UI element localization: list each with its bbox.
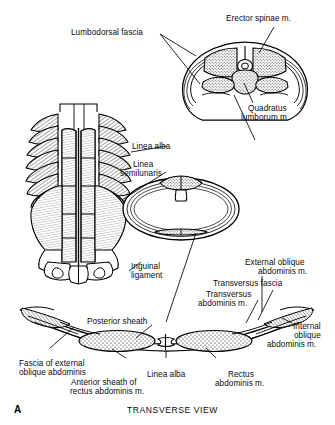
label-transversus-fascia: Transversus fascia xyxy=(213,279,282,289)
trunk-transverse-oval-panel xyxy=(123,176,239,240)
label-transversus-abdominis-line2: abdominis m. xyxy=(198,299,247,309)
lumbar-cross-section-panel xyxy=(182,42,307,120)
panel-letter-a: A xyxy=(14,404,22,415)
label-rectus-abdominis-line2: abdominis m. xyxy=(215,379,264,389)
label-inguinal-ligament-line2: ligament xyxy=(131,271,162,281)
label-fascia-external-oblique-line2: oblique abdominis xyxy=(19,368,86,378)
figure-caption: TRANSVERSE VIEW xyxy=(127,405,218,415)
anatomical-figure: Lumbodorsal fascia Erector spinae m. Qua… xyxy=(0,0,335,425)
label-posterior-sheath: Posterior sheath xyxy=(87,317,147,327)
label-external-oblique-line2: abdominis m. xyxy=(258,267,307,277)
label-lumbodorsal-fascia: Lumbodorsal fascia xyxy=(71,28,143,38)
label-linea-semilunaris-line2: semilunaris xyxy=(120,169,162,179)
anterior-abdominal-wall-panel xyxy=(26,104,131,284)
label-linea-alba-upper: Linea alba xyxy=(132,142,170,152)
label-erector-spinae: Erector spinae m. xyxy=(226,14,291,24)
label-internal-oblique-line3: abdominis m. xyxy=(267,340,316,350)
label-linea-alba-lower: Linea alba xyxy=(147,370,185,380)
label-anterior-sheath-line2: rectus abdominis m. xyxy=(70,387,144,397)
label-quadratus-lumborum-line2: lumborum m. xyxy=(241,113,289,123)
